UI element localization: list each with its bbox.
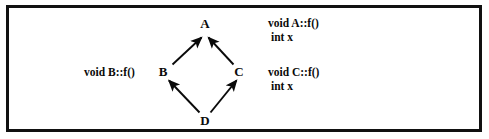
edge-b-to-a <box>173 38 202 65</box>
annotation-class-a: void A::f() int x <box>268 16 319 44</box>
annotation-class-b: void B::f() <box>84 65 135 79</box>
annotation-b-method: void B::f() <box>84 66 135 78</box>
annotation-a-method: void A::f() <box>268 17 319 29</box>
node-label-a: A <box>200 17 209 30</box>
node-label-d: D <box>200 114 209 127</box>
edge-d-to-c <box>211 81 237 113</box>
node-label-c: C <box>234 65 243 78</box>
annotation-c-member: int x <box>268 79 319 93</box>
edge-c-to-a <box>209 38 234 65</box>
annotation-c-method: void C::f() <box>268 66 319 78</box>
node-label-b: B <box>159 65 168 78</box>
annotation-a-member: int x <box>268 30 319 44</box>
figure-container: A B C D void A::f() int x void C::f() in… <box>0 0 489 139</box>
annotation-class-c: void C::f() int x <box>268 65 319 93</box>
inheritance-diagram-graphic <box>0 0 489 139</box>
edge-d-to-b <box>169 81 200 113</box>
